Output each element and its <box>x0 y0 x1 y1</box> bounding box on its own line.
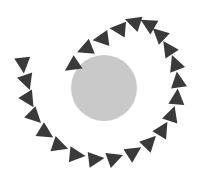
figure-canvas <box>0 0 202 188</box>
grey-circle-icon <box>71 55 137 121</box>
spiral-arrow-figure <box>0 0 202 188</box>
